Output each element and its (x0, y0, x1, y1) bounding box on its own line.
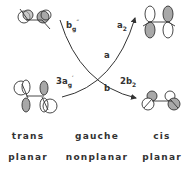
cis-b2-orbital-icon (142, 91, 180, 110)
cis-a2-orbital-icon (143, 6, 175, 38)
trans-geometry-label: planar (0, 152, 58, 162)
trans-ag-orbital-icon (14, 80, 57, 113)
gauche-label: gauche (67, 131, 127, 141)
path-a-label: a (104, 50, 110, 60)
orbital-correlation-diagram (0, 0, 187, 169)
gauche-geometry-label: nonplanar (62, 152, 132, 162)
cis-label: cis (132, 131, 187, 141)
path-b-label: b (104, 83, 110, 93)
a2-symbol-label: a2 (117, 20, 127, 32)
trans-bg-orbital-icon (18, 9, 51, 29)
cis-geometry-label: planar (132, 152, 187, 162)
bg-symbol-label: bg″ (66, 18, 79, 32)
3ag-symbol-label: 3ag′ (56, 74, 74, 88)
2b2-symbol-label: 2b2 (120, 76, 136, 88)
trans-label: trans (0, 131, 58, 141)
